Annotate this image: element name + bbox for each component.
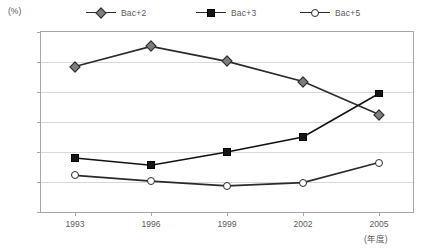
circle-marker-icon: [223, 182, 231, 190]
chart-legend: Bac+2 Bac+3 Bac+5: [0, 0, 424, 26]
x-tick-mark: [303, 212, 304, 216]
y-axis-unit-label: (%): [8, 6, 21, 16]
legend-item-bac2: Bac+2: [86, 6, 146, 20]
x-axis-unit-label: (年度): [364, 232, 388, 244]
x-tick-label: 1993: [53, 219, 97, 229]
legend-label-bac3: Bac+3: [231, 8, 256, 18]
circle-marker-icon: [375, 159, 383, 167]
square-marker-icon: [375, 90, 383, 98]
x-tick-mark: [379, 212, 380, 216]
legend-label-bac5: Bac+5: [335, 8, 360, 18]
x-tick-label: 2002: [281, 219, 325, 229]
circle-marker-icon: [299, 179, 307, 187]
square-marker-icon: [299, 133, 307, 141]
x-tick-mark: [75, 212, 76, 216]
diamond-marker-icon: [86, 7, 116, 19]
x-tick-mark: [151, 212, 152, 216]
y-tick-mark: [37, 212, 41, 213]
legend-item-bac5: Bac+5: [300, 6, 360, 20]
square-marker-icon: [71, 154, 79, 162]
x-tick-label: 1999: [205, 219, 249, 229]
line-chart: Bac+2 Bac+3 Bac+5 (%) (年度) 0102030405060…: [0, 0, 424, 249]
x-tick-mark: [227, 212, 228, 216]
square-marker-icon: [147, 161, 155, 169]
square-marker-icon: [223, 148, 231, 156]
circle-marker-icon: [300, 7, 330, 19]
square-marker-icon: [196, 7, 226, 19]
legend-label-bac2: Bac+2: [121, 8, 146, 18]
x-tick-label: 1996: [129, 219, 173, 229]
plot-area: 0102030405060 19931996199920022005: [40, 31, 414, 213]
legend-item-bac3: Bac+3: [196, 6, 256, 20]
x-tick-label: 2005: [357, 219, 401, 229]
